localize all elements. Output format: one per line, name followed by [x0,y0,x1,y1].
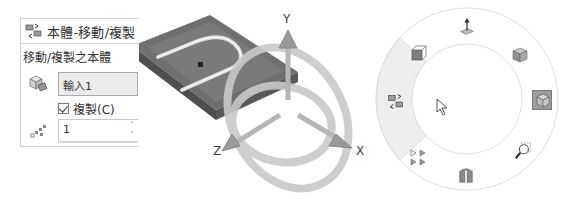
panel-title: 本體-移動/複製 [47,22,136,41]
display-style-selected-icon [534,92,552,110]
triad-axes[interactable] [222,30,352,151]
bodies-selection-field[interactable]: 輸入1 [58,72,138,96]
copy-checkbox[interactable] [58,103,69,114]
spinner-underline [58,141,138,143]
normal-to-icon[interactable] [458,18,476,36]
copies-count-value: 1 [63,123,70,136]
copy-checkbox-label: 複製(C) [73,100,115,117]
display-style-button[interactable] [532,90,552,110]
y-axis-label: Y [283,12,290,26]
view-orientation-cube-icon[interactable] [511,46,529,64]
triad-rings[interactable] [204,26,372,199]
pattern-copies-icon [30,123,48,139]
plate-model[interactable] [132,15,298,120]
x-axis-label: X [356,144,364,158]
hidden-lines-box-icon[interactable] [410,44,428,62]
copies-count-spinner[interactable]: 1 ˄ ˅ [58,119,138,141]
display-pane-icon[interactable] [410,149,428,167]
solid-bodies-icon [27,74,49,94]
z-axis-label: Z [213,144,221,158]
zoom-to-area-icon[interactable] [514,142,532,160]
move-copy-body-panel: 本體-移動/複製 移動/複製之本體 輸入1 複製(C) 1 ˄ ˅ [20,18,139,147]
copy-checkbox-row[interactable]: 複製(C) [58,100,115,117]
panel-header: 本體-移動/複製 [21,19,139,44]
spin-down-icon[interactable]: ˅ [131,131,135,139]
spin-up-icon[interactable]: ˄ [131,121,135,129]
mouse-pointer-icon [436,98,450,116]
move-copy-body-icon [25,23,43,39]
section-title-bodies: 移動/複製之本體 [23,48,111,65]
section-view-icon[interactable] [457,166,475,184]
mouse-gesture-radial-menu [374,6,560,192]
move-copy-bodies-icon[interactable] [387,93,405,111]
